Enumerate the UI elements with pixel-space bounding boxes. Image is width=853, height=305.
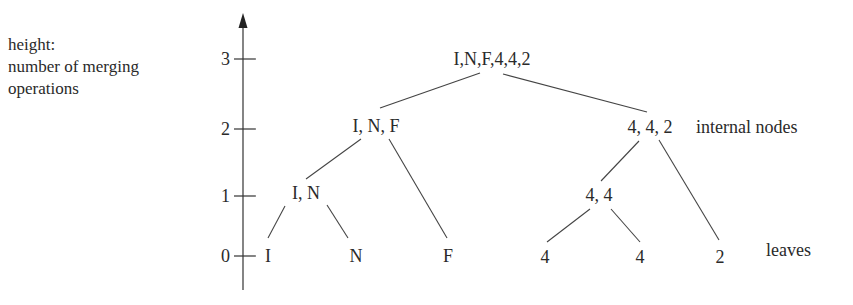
annotation-internal-nodes: internal nodes <box>696 117 797 137</box>
y-axis-title: height: number of merging operations <box>8 34 139 100</box>
leaf-2: 2 <box>716 247 725 267</box>
leaf-4a: 4 <box>541 247 550 267</box>
edge-44-4b <box>611 209 640 242</box>
edge-INF-IN <box>306 139 361 179</box>
leaf-I: I <box>265 246 271 266</box>
node-INF: I, N, F <box>352 116 399 136</box>
node-root: I,N,F,4,4,2 <box>453 49 530 69</box>
node-44: 4, 4 <box>586 185 613 205</box>
y-axis-title-line-2: number of merging <box>8 56 139 78</box>
leaf-4b: 4 <box>636 247 645 267</box>
edge-44-4a <box>547 209 590 242</box>
annotation-leaves: leaves <box>766 240 811 260</box>
y-axis-title-line-1: height: <box>8 34 139 56</box>
edge-442-44 <box>601 141 639 181</box>
tick-label-0: 0 <box>221 246 230 266</box>
leaf-N: N <box>350 246 363 266</box>
edge-root-INF <box>380 73 480 108</box>
tick-label-1: 1 <box>221 186 230 206</box>
y-axis-arrowhead <box>239 13 248 28</box>
node-442: 4, 4, 2 <box>628 117 673 137</box>
edge-442-2 <box>659 140 719 240</box>
node-IN: I, N <box>292 183 320 203</box>
edge-IN-I <box>268 206 285 238</box>
leaf-F: F <box>443 246 453 266</box>
tick-label-2: 2 <box>221 119 230 139</box>
y-axis-title-line-3: operations <box>8 78 139 100</box>
tick-label-3: 3 <box>221 49 230 69</box>
edge-INF-F <box>389 139 447 238</box>
edge-IN-N <box>327 205 348 238</box>
edge-root-442 <box>503 74 647 112</box>
